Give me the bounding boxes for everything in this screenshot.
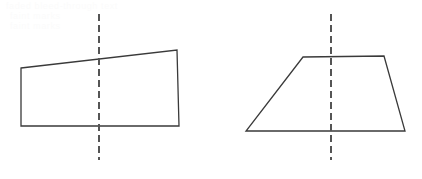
geometry-figure-canvas <box>0 0 422 179</box>
page-root: faded bleed-through text faint marks fai… <box>0 0 422 179</box>
right-figure-group <box>246 14 405 160</box>
trapezoid-shape <box>246 56 405 131</box>
left-figure-group <box>21 14 179 160</box>
